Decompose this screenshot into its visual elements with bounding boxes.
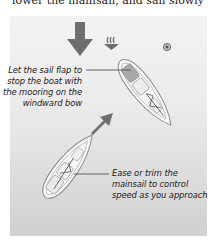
upper-annotation-line: the mooring on the [3,87,82,98]
lower-annotation-line: Ease or trim the [112,168,207,179]
upper-annotation-line: Let the sail flap to [3,65,82,76]
lower-annotation-line: speed as you approach [112,190,207,201]
mooring-buoy-icon [163,43,170,50]
wind-arrow-icon [67,22,93,56]
mooring-diagram [0,0,215,241]
lower-annotation: Ease or trim the mainsail to control spe… [112,168,207,201]
upper-annotation-line: windward bow [3,98,82,109]
upper-annotation: Let the sail flap to stop the boat with … [3,65,82,109]
boat-at-mooring [112,54,180,132]
lower-annotation-line: mainsail to control [112,179,207,190]
upper-annotation-line: stop the boat with [3,76,82,87]
course-arrow-icon [92,113,113,134]
tide-symbol-icon [104,37,119,50]
boat-approaching [36,128,101,204]
